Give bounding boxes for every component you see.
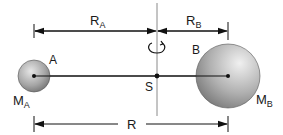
label-r-b: RB bbox=[186, 13, 201, 30]
label-point-b: B bbox=[192, 43, 200, 57]
label-center-s: S bbox=[145, 80, 153, 94]
label-r-total: R bbox=[127, 117, 136, 132]
label-mass-b: MB bbox=[256, 92, 273, 109]
label-r-a: RA bbox=[90, 13, 105, 30]
label-point-a: A bbox=[49, 53, 57, 67]
two-body-diagram: RA RB A B S MA MB R bbox=[0, 0, 283, 135]
label-mass-a: MA bbox=[13, 93, 30, 110]
body-a-center bbox=[32, 74, 36, 78]
body-b-center bbox=[226, 74, 230, 78]
center-of-mass-point bbox=[155, 74, 160, 79]
